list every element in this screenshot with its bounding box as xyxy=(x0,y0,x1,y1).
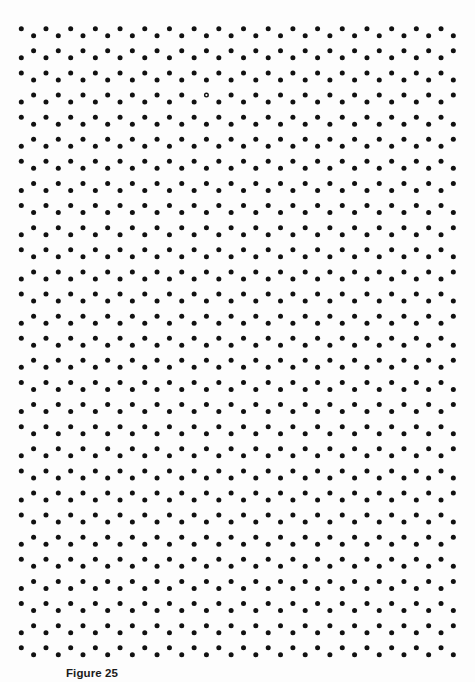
lattice-dot xyxy=(253,93,258,98)
lattice-dot xyxy=(253,431,258,436)
lattice-dot xyxy=(414,26,419,31)
lattice-dot xyxy=(327,48,332,53)
lattice-dot xyxy=(229,225,234,230)
lattice-dot xyxy=(451,431,456,436)
lattice-dot xyxy=(31,225,36,230)
lattice-dot xyxy=(68,409,73,414)
lattice-dot xyxy=(340,276,345,281)
lattice-dot xyxy=(340,144,345,149)
lattice-dot xyxy=(93,630,98,635)
lattice-dot xyxy=(439,276,444,281)
lattice-dot xyxy=(93,144,98,149)
lattice-dot xyxy=(155,225,160,230)
lattice-dot xyxy=(303,358,308,363)
lattice-dot xyxy=(352,48,357,53)
lattice-dot xyxy=(155,535,160,540)
lattice-dot xyxy=(68,380,73,385)
lattice-dot xyxy=(118,115,123,120)
lattice-dot xyxy=(327,652,332,657)
lattice-dot xyxy=(179,181,184,186)
lattice-dot xyxy=(327,564,332,569)
lattice-dot xyxy=(142,159,147,164)
lattice-dot xyxy=(142,232,147,237)
lattice-dot xyxy=(142,586,147,591)
lattice-dot xyxy=(340,557,345,562)
lattice-dot xyxy=(426,579,431,584)
lattice-dot xyxy=(216,557,221,562)
lattice-dot xyxy=(389,586,394,591)
lattice-dot xyxy=(167,292,172,297)
lattice-dot xyxy=(253,608,258,613)
lattice-dot xyxy=(93,645,98,650)
lattice-dot xyxy=(167,542,172,547)
lattice-dot xyxy=(340,645,345,650)
lattice-dot xyxy=(130,210,135,215)
lattice-dot xyxy=(439,513,444,518)
lattice-dot xyxy=(401,269,406,274)
lattice-dot xyxy=(327,431,332,436)
lattice-dot xyxy=(290,586,295,591)
lattice-dot xyxy=(241,365,246,370)
lattice-dot xyxy=(426,387,431,392)
lattice-dot xyxy=(56,33,61,38)
lattice-dot xyxy=(401,343,406,348)
lattice-dot xyxy=(253,564,258,569)
lattice-dot xyxy=(130,623,135,628)
lattice-dot xyxy=(290,380,295,385)
lattice-dot xyxy=(130,122,135,127)
lattice-dot xyxy=(105,608,110,613)
lattice-dot xyxy=(192,115,197,120)
lattice-dot xyxy=(401,402,406,407)
lattice-dot xyxy=(426,431,431,436)
lattice-dot xyxy=(241,498,246,503)
lattice-dot xyxy=(216,70,221,75)
lattice-dot xyxy=(327,254,332,259)
lattice-dot xyxy=(303,431,308,436)
lattice-dot xyxy=(364,498,369,503)
lattice-dot xyxy=(155,77,160,82)
lattice-dot xyxy=(31,77,36,82)
lattice-dot xyxy=(155,564,160,569)
lattice-dot xyxy=(278,77,283,82)
lattice-dot xyxy=(179,166,184,171)
lattice-dot xyxy=(241,542,246,547)
lattice-dot xyxy=(19,55,24,60)
lattice-dot xyxy=(352,564,357,569)
lattice-dot xyxy=(118,336,123,341)
lattice-dot xyxy=(426,520,431,525)
lattice-dot xyxy=(401,520,406,525)
lattice-dot xyxy=(278,475,283,480)
lattice-dot xyxy=(315,276,320,281)
lattice-dot xyxy=(68,365,73,370)
lattice-dot xyxy=(352,254,357,259)
lattice-dot xyxy=(414,232,419,237)
lattice-dot xyxy=(278,535,283,540)
lattice-dot xyxy=(130,299,135,304)
lattice-dot xyxy=(155,343,160,348)
lattice-dot xyxy=(118,586,123,591)
lattice-dot xyxy=(340,513,345,518)
lattice-dot xyxy=(118,424,123,429)
lattice-dot xyxy=(56,48,61,53)
lattice-dot xyxy=(414,513,419,518)
lattice-dot xyxy=(229,387,234,392)
lattice-dot xyxy=(68,203,73,208)
lattice-dot xyxy=(290,645,295,650)
lattice-dot xyxy=(43,498,48,503)
lattice-dot xyxy=(364,557,369,562)
lattice-dot xyxy=(414,557,419,562)
lattice-dot xyxy=(290,409,295,414)
lattice-dot xyxy=(179,122,184,127)
lattice-dot xyxy=(241,645,246,650)
lattice-dot xyxy=(31,579,36,584)
lattice-dot xyxy=(130,520,135,525)
lattice-dot xyxy=(439,630,444,635)
lattice-dot xyxy=(253,520,258,525)
lattice-dot xyxy=(105,652,110,657)
lattice-dot xyxy=(192,232,197,237)
lattice-dot xyxy=(68,100,73,105)
lattice-dot xyxy=(253,269,258,274)
lattice-dot xyxy=(352,520,357,525)
lattice-dot xyxy=(43,276,48,281)
lattice-dot xyxy=(93,468,98,473)
